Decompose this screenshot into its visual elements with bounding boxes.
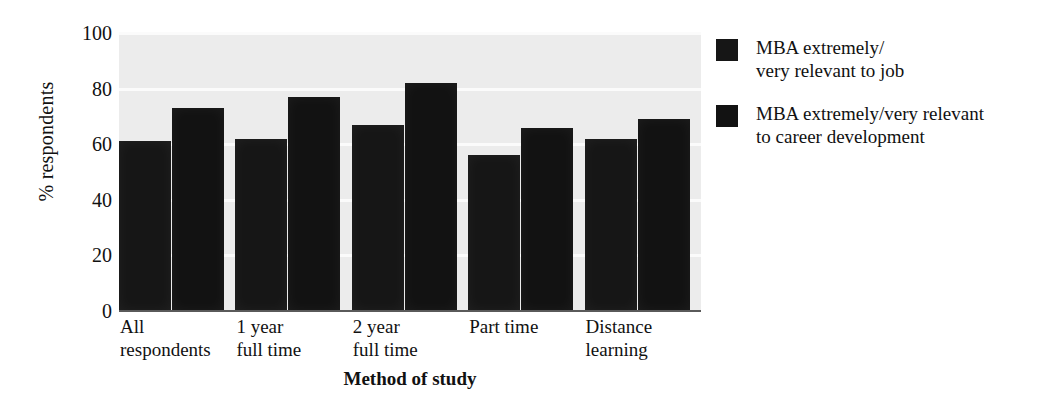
y-tick-label: 100	[66, 23, 112, 43]
bar	[585, 139, 637, 311]
x-axis-tick-labels: All respondents1 year full time2 year fu…	[119, 315, 701, 375]
y-tick-label: 80	[66, 79, 112, 99]
y-tick-label: 60	[66, 134, 112, 154]
x-axis-line	[119, 310, 701, 312]
legend-item: MBA extremely/very relevant to career de…	[716, 102, 1046, 148]
x-tick-label: 1 year full time	[236, 315, 348, 361]
x-axis-title: Method of study	[119, 368, 701, 390]
legend-swatch-icon	[716, 105, 738, 127]
x-tick-label: Part time	[469, 315, 581, 338]
legend-swatch-icon	[716, 39, 738, 61]
bar	[172, 108, 224, 311]
bar	[405, 83, 457, 311]
x-tick-label: Distance learning	[586, 315, 698, 361]
bar	[521, 128, 573, 311]
chart-legend: MBA extremely/ very relevant to jobMBA e…	[716, 36, 1046, 168]
bar	[468, 155, 520, 311]
bar	[638, 119, 690, 311]
y-axis-title: % respondents	[35, 52, 58, 232]
y-tick-label: 0	[66, 301, 112, 321]
x-tick-label: 2 year full time	[353, 315, 465, 361]
bar	[119, 141, 171, 311]
legend-label: MBA extremely/ very relevant to job	[756, 36, 904, 82]
x-tick-label: All respondents	[120, 315, 232, 361]
y-tick-label: 40	[66, 190, 112, 210]
legend-item: MBA extremely/ very relevant to job	[716, 36, 1046, 82]
y-tick-label: 20	[66, 245, 112, 265]
bar-chart-figure: % respondents 100806040200 All responden…	[0, 0, 1050, 403]
bar	[352, 125, 404, 311]
bar	[288, 97, 340, 311]
bar	[235, 139, 287, 311]
plot-area	[119, 33, 701, 311]
legend-label: MBA extremely/very relevant to career de…	[756, 102, 984, 148]
gridline	[119, 32, 701, 35]
y-axis-tick-labels: 100806040200	[62, 0, 112, 403]
